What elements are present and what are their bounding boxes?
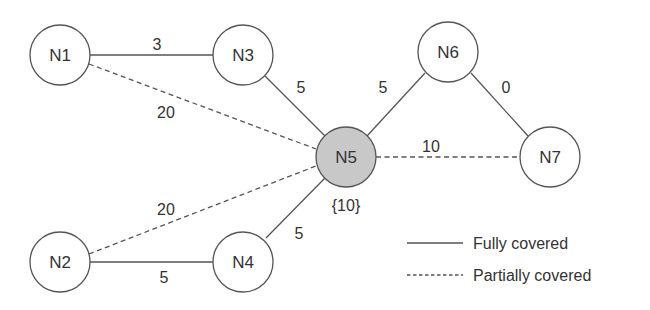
node-label: N2: [49, 253, 71, 272]
legend-label-partial: Partially covered: [473, 267, 591, 284]
node-n4: N4: [213, 232, 273, 292]
edge-label-n6-n7: 0: [502, 79, 511, 96]
node-label: N3: [232, 46, 254, 65]
edge-label-n4-n5: 5: [295, 225, 304, 242]
legend: Fully covered Partially covered: [407, 235, 591, 284]
edge-n6-n7: [471, 73, 528, 136]
node-label: N4: [232, 253, 254, 272]
edge-label-n1-n3: 3: [153, 36, 162, 53]
edge-label-n6-n5: 5: [379, 79, 388, 96]
edge-label-n2-n5: 20: [157, 201, 175, 218]
edge-n1-n5: [89, 64, 316, 149]
edge-n2-n5: [89, 166, 316, 254]
node-n7: N7: [520, 127, 580, 187]
node-label: N5: [335, 148, 357, 167]
node-label: N7: [539, 148, 561, 167]
node-annotation: {10}: [332, 197, 361, 214]
edge-n3-n5: [265, 76, 325, 136]
node-n2: N2: [30, 232, 90, 292]
node-label: N6: [437, 43, 459, 62]
network-diagram: 3 20 5 5 0 10 20 5 5 N1 N3 N6 N5 {10} N7…: [0, 0, 650, 310]
edge-label-n2-n4: 5: [160, 269, 169, 286]
edge-n6-n5: [367, 73, 425, 136]
node-n3: N3: [213, 25, 273, 85]
node-n1: N1: [30, 25, 90, 85]
edge-label-n1-n5: 20: [157, 104, 175, 121]
node-n5: N5 {10}: [316, 127, 376, 214]
legend-label-full: Fully covered: [473, 235, 568, 252]
edge-label-n3-n5: 5: [297, 79, 306, 96]
edge-label-n5-n7: 10: [422, 138, 440, 155]
node-label: N1: [49, 46, 71, 65]
node-n6: N6: [418, 22, 478, 82]
